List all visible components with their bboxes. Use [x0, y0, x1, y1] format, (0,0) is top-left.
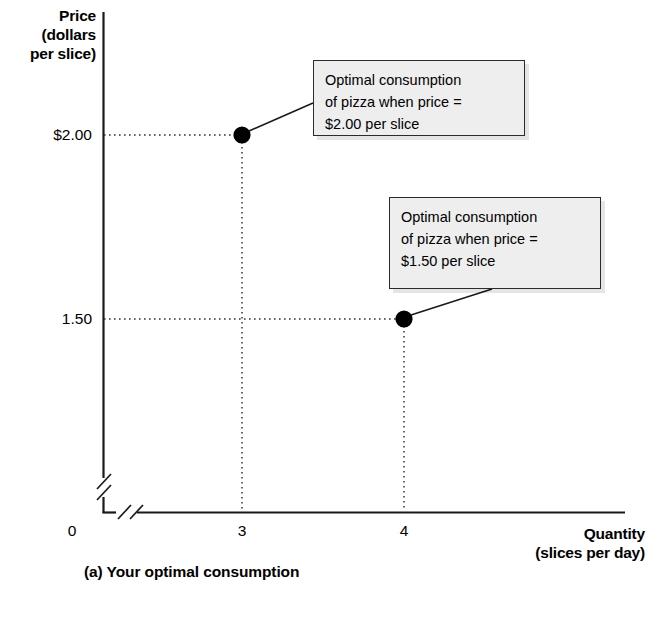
data-point-q4-p150	[395, 310, 412, 327]
y-axis-title: Price (dollars per slice)	[0, 6, 96, 63]
y-tick-label-150: 1.50	[8, 310, 92, 328]
x-axis-title: Quantity (slices per day)	[400, 524, 645, 562]
x-axis-break-mark	[118, 505, 131, 519]
economics-figure: Price (dollars per slice) Quantity (slic…	[0, 0, 653, 617]
leader-line-callout-0	[249, 103, 313, 131]
figure-caption: (a) Your optimal consumption	[84, 563, 299, 581]
annotation-callout-price-150: Optimal consumption of pizza when price …	[389, 197, 601, 289]
x-tick-label-4: 4	[384, 522, 424, 540]
y-tick-label-200: $2.00	[8, 126, 92, 144]
origin-label: 0	[52, 522, 92, 540]
data-point-q3-p200	[233, 126, 250, 143]
annotation-callout-price-200: Optimal consumption of pizza when price …	[313, 60, 525, 136]
leader-line-callout-1	[411, 289, 492, 315]
x-tick-label-3: 3	[222, 522, 262, 540]
